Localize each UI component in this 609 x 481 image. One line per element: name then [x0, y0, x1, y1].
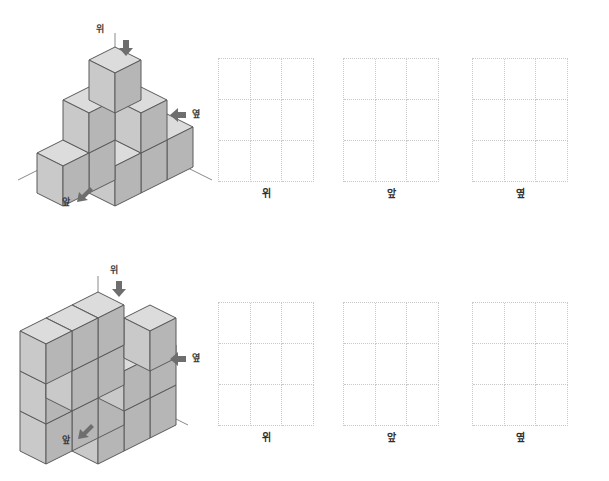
side-view-grid[interactable]	[472, 302, 568, 426]
side-view-caption: 옆	[472, 433, 568, 443]
grid-cell[interactable]	[219, 303, 251, 344]
front-view-grid[interactable]	[343, 58, 439, 182]
front-arrow-icon	[78, 423, 94, 439]
grid-cell[interactable]	[251, 59, 283, 100]
grid-cell[interactable]	[282, 100, 314, 141]
grid-cell[interactable]	[473, 59, 505, 100]
problem-2-front-view: 앞	[343, 302, 439, 443]
grid-cell[interactable]	[505, 59, 537, 100]
grid-cell[interactable]	[219, 141, 251, 182]
grid-cell[interactable]	[376, 385, 408, 426]
grid-cell[interactable]	[219, 100, 251, 141]
worksheet-page: 위 옆 앞	[0, 0, 609, 481]
grid-cell[interactable]	[344, 59, 376, 100]
problem-1-figure: 위 옆 앞	[0, 0, 230, 240]
problem-1-front-view: 앞	[343, 58, 439, 199]
grid-cell[interactable]	[251, 100, 283, 141]
grid-cell[interactable]	[536, 385, 568, 426]
grid-cell[interactable]	[251, 344, 283, 385]
grid-cell[interactable]	[376, 303, 408, 344]
side-arrow-icon	[170, 352, 186, 366]
top-arrow-icon	[119, 40, 133, 56]
grid-cell[interactable]	[219, 59, 251, 100]
problem-1-side-view: 옆	[472, 58, 568, 199]
problem-2: 위 옆 앞	[0, 240, 609, 481]
grid-cell[interactable]	[407, 59, 439, 100]
problem-2-figure: 위 옆 앞	[0, 240, 230, 480]
grid-cell[interactable]	[505, 303, 537, 344]
grid-cell[interactable]	[536, 141, 568, 182]
grid-cell[interactable]	[344, 141, 376, 182]
grid-cell[interactable]	[282, 385, 314, 426]
grid-cell[interactable]	[344, 100, 376, 141]
problem-1: 위 옆 앞	[0, 0, 609, 240]
grid-cell[interactable]	[473, 385, 505, 426]
top-direction-label: 위	[96, 25, 104, 34]
grid-cell[interactable]	[473, 141, 505, 182]
grid-cell[interactable]	[219, 344, 251, 385]
grid-cell[interactable]	[407, 141, 439, 182]
top-view-grid[interactable]	[218, 302, 314, 426]
grid-cell[interactable]	[282, 59, 314, 100]
grid-cell[interactable]	[407, 385, 439, 426]
top-view-caption: 위	[218, 189, 314, 199]
front-view-grid[interactable]	[343, 302, 439, 426]
grid-cell[interactable]	[407, 303, 439, 344]
grid-cell[interactable]	[251, 141, 283, 182]
grid-cell[interactable]	[219, 385, 251, 426]
grid-cell[interactable]	[473, 344, 505, 385]
grid-cell[interactable]	[505, 385, 537, 426]
front-view-caption: 앞	[343, 433, 439, 443]
grid-cell[interactable]	[407, 100, 439, 141]
grid-cell[interactable]	[344, 385, 376, 426]
side-direction-label: 옆	[192, 110, 200, 119]
grid-cell[interactable]	[376, 100, 408, 141]
front-direction-label: 앞	[62, 198, 70, 207]
side-arrow-icon	[170, 108, 186, 122]
top-arrow-icon	[112, 281, 126, 297]
grid-cell[interactable]	[505, 344, 537, 385]
grid-cell[interactable]	[407, 344, 439, 385]
grid-cell[interactable]	[282, 344, 314, 385]
grid-cell[interactable]	[536, 344, 568, 385]
grid-cell[interactable]	[473, 100, 505, 141]
grid-cell[interactable]	[344, 344, 376, 385]
grid-cell[interactable]	[505, 100, 537, 141]
front-direction-label: 앞	[62, 436, 70, 445]
cube-layer-top	[89, 47, 141, 113]
grid-cell[interactable]	[505, 141, 537, 182]
grid-cell[interactable]	[376, 141, 408, 182]
top-view-caption: 위	[218, 433, 314, 443]
grid-cell[interactable]	[536, 100, 568, 141]
problem-2-side-view: 옆	[472, 302, 568, 443]
side-direction-label: 옆	[192, 354, 200, 363]
top-view-grid[interactable]	[218, 58, 314, 182]
grid-cell[interactable]	[536, 303, 568, 344]
grid-cell[interactable]	[473, 303, 505, 344]
problem-1-top-view: 위	[218, 58, 314, 199]
grid-cell[interactable]	[344, 303, 376, 344]
problem-2-top-view: 위	[218, 302, 314, 443]
grid-cell[interactable]	[376, 59, 408, 100]
side-view-caption: 옆	[472, 189, 568, 199]
grid-cell[interactable]	[251, 303, 283, 344]
grid-cell[interactable]	[536, 59, 568, 100]
front-view-caption: 앞	[343, 189, 439, 199]
grid-cell[interactable]	[282, 303, 314, 344]
grid-cell[interactable]	[282, 141, 314, 182]
grid-cell[interactable]	[251, 385, 283, 426]
grid-cell[interactable]	[376, 344, 408, 385]
staircase-pyramid-solid	[0, 0, 230, 240]
front-arrow-icon	[77, 186, 93, 202]
side-view-grid[interactable]	[472, 58, 568, 182]
top-direction-label: 위	[110, 266, 118, 275]
